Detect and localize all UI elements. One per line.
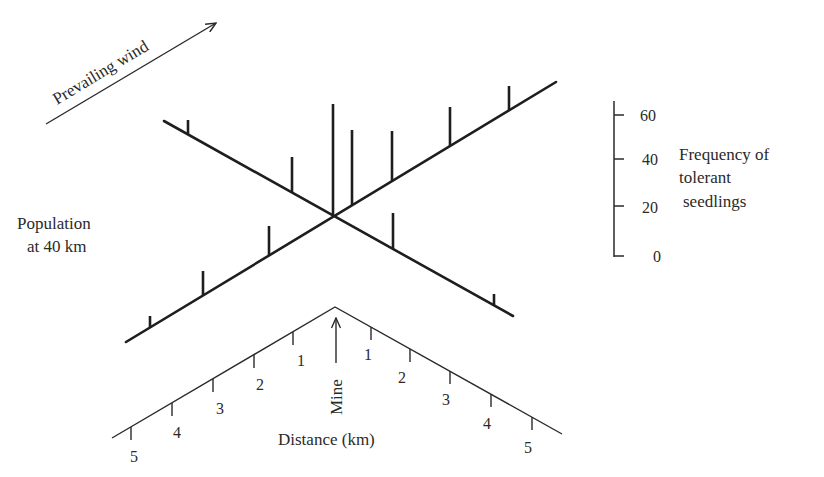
frequency-bars [150, 86, 509, 328]
left-tick-label-1: 1 [297, 352, 305, 369]
mine-label: Mine [327, 379, 346, 415]
right-tick-label-4: 4 [483, 415, 491, 432]
frequency-scale: 60 40 20 0 Frequency of tolerant seedlin… [614, 101, 770, 265]
tick-label-60: 60 [640, 107, 656, 124]
right-tick-label-2: 2 [398, 369, 406, 386]
population-line-1: Population [17, 214, 91, 233]
tick-label-0: 0 [653, 248, 661, 265]
prevailing-wind-indicator: Prevailing wind [46, 23, 216, 124]
left-tick-label-3: 3 [216, 400, 224, 417]
frequency-label-line-3: seedlings [683, 192, 746, 211]
population-line-2: at 40 km [27, 237, 87, 256]
left-tick-label-2: 2 [256, 376, 264, 393]
right-tick-label-5: 5 [524, 439, 532, 456]
seedling-diagram: Prevailing wind Population at 40 km [0, 0, 824, 477]
wind-arrow-icon [46, 23, 216, 124]
distance-scale: 1 2 3 4 5 1 2 3 4 5 Mine Distance (km) [112, 307, 562, 465]
frequency-label-line-1: Frequency of [679, 145, 770, 164]
frequency-label-line-2: tolerant [679, 168, 731, 187]
distance-scale-line [112, 307, 562, 438]
tick-label-20: 20 [642, 199, 658, 216]
tick-label-40: 40 [642, 151, 658, 168]
distance-title: Distance (km) [278, 430, 375, 449]
right-tick-label-1: 1 [364, 346, 372, 363]
population-label: Population at 40 km [17, 214, 91, 256]
right-tick-label-3: 3 [442, 391, 450, 408]
left-tick-label-5: 5 [130, 448, 138, 465]
left-tick-label-4: 4 [173, 424, 181, 441]
wind-label: Prevailing wind [49, 36, 152, 108]
transects [126, 82, 556, 342]
